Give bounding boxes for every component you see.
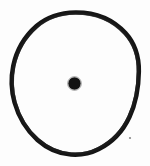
center-dot bbox=[68, 77, 80, 89]
ink-speck bbox=[129, 137, 131, 139]
center-dot-group bbox=[68, 77, 82, 91]
sun-symbol-drawing bbox=[0, 0, 150, 166]
figure-canvas: Circle with central dot Hand-drawn ink o… bbox=[0, 0, 150, 166]
